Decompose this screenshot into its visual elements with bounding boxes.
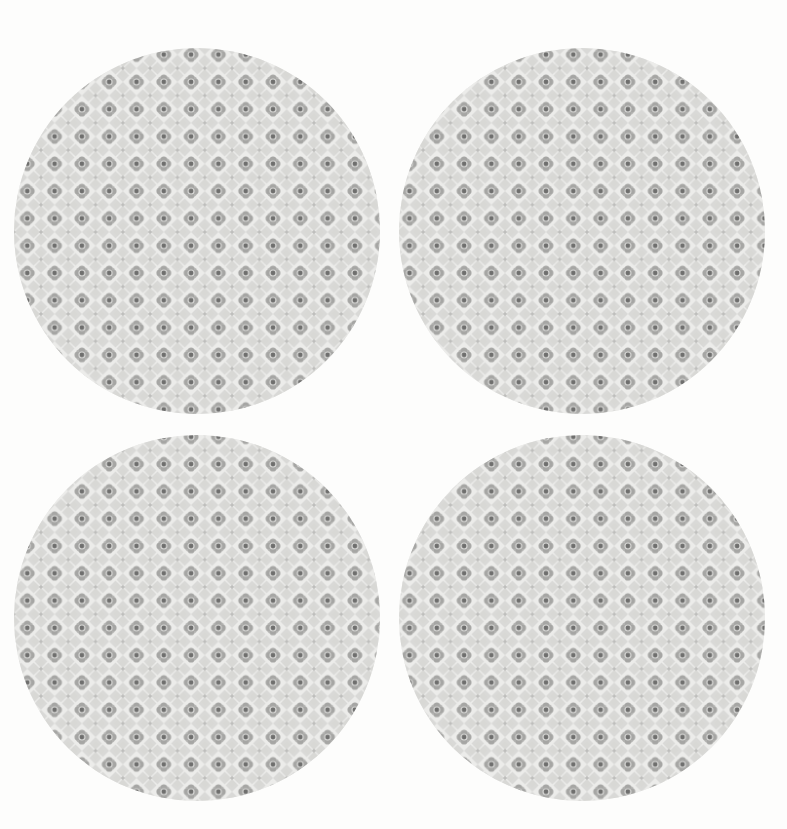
pattern-fill: [14, 435, 380, 801]
pattern-fill: [399, 435, 765, 801]
patterned-circle-bottom-right: [399, 435, 765, 801]
patterned-circle-bottom-left: [14, 435, 380, 801]
pattern-fill: [399, 48, 765, 414]
pattern-fill: [14, 48, 380, 414]
patterned-circle-top-right: [399, 48, 765, 414]
artwork-canvas: Four patterned circles A 2 by 2 arrangem…: [0, 0, 787, 829]
patterned-circle-top-left: [14, 48, 380, 414]
